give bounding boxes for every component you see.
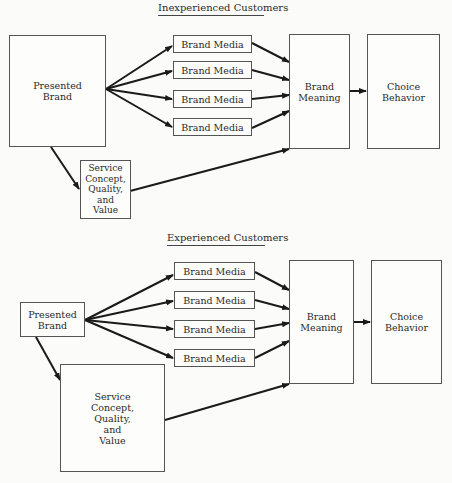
brand-media-box: Brand Media [174, 291, 255, 309]
presented-brand-label: Presented Brand [33, 80, 82, 102]
brand-media-label: Brand Media [181, 122, 244, 133]
presented-brand-box: Presented Brand [9, 35, 106, 147]
brand-media-label: Brand Media [183, 266, 246, 277]
presented-brand-box: Presented Brand [20, 302, 85, 337]
brand-media-label: Brand Media [183, 324, 246, 335]
diagram-title: Inexperienced Customers [158, 2, 264, 16]
brand-meaning-label: Brand Meaning [298, 81, 340, 103]
choice-behavior-box: Choice Behavior [367, 34, 440, 149]
brand-media-box: Brand Media [173, 35, 252, 53]
choice-behavior-box: Choice Behavior [371, 260, 442, 384]
brand-media-box: Brand Media [173, 118, 252, 136]
presented-brand-label: Presented Brand [28, 309, 77, 331]
brand-media-box: Brand Media [173, 61, 252, 79]
diagram-title: Experienced Customers [167, 232, 265, 246]
brand-media-label: Brand Media [183, 295, 246, 306]
brand-media-label: Brand Media [181, 94, 244, 105]
brand-media-label: Brand Media [183, 353, 246, 364]
brand-media-box: Brand Media [174, 320, 255, 338]
brand-media-label: Brand Media [181, 65, 244, 76]
brand-media-box: Brand Media [174, 349, 255, 367]
brand-media-box: Brand Media [174, 262, 255, 280]
brand-meaning-box: Brand Meaning [289, 34, 350, 149]
service-concept-box: Service Concept, Quality, and Value [80, 160, 131, 219]
brand-media-label: Brand Media [181, 39, 244, 50]
service-concept-label: Service Concept, Quality, and Value [85, 163, 126, 216]
service-concept-label: Service Concept, Quality, and Value [91, 391, 134, 446]
service-concept-box: Service Concept, Quality, and Value [60, 364, 165, 472]
brand-meaning-label: Brand Meaning [300, 311, 342, 333]
choice-behavior-label: Choice Behavior [382, 81, 425, 103]
choice-behavior-label: Choice Behavior [385, 311, 428, 333]
brand-meaning-box: Brand Meaning [289, 260, 354, 384]
brand-media-box: Brand Media [173, 90, 252, 108]
